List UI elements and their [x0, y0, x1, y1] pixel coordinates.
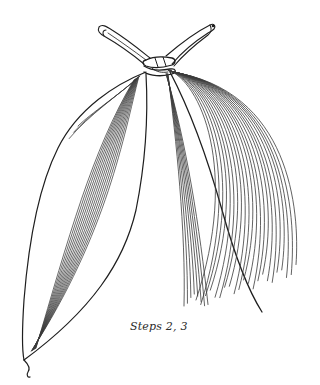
- right-fan-vein: [172, 72, 289, 278]
- right-fan-vein: [169, 70, 230, 297]
- right-fan-inner-vein: [167, 74, 194, 294]
- left-leaf-veins: [31, 76, 140, 351]
- right-fan-vein: [170, 71, 257, 283]
- right-fan-inner-vein: [167, 74, 198, 296]
- right-fan-vein: [171, 71, 269, 274]
- top-left-strip: [98, 26, 150, 64]
- top-right-strip: [166, 24, 215, 66]
- figure-caption: Steps 2, 3: [130, 320, 188, 333]
